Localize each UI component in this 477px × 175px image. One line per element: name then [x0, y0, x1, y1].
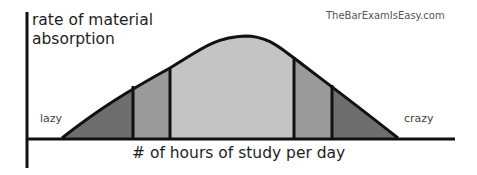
watermark: TheBarExamIsEasy.com [326, 10, 445, 21]
lazy-label: lazy [40, 112, 62, 125]
region-middle-right [294, 20, 332, 138]
x-axis-label: # of hours of study per day [132, 144, 345, 162]
y-axis-label-line2: absorption [32, 30, 153, 49]
y-axis-label-line1: rate of material [32, 11, 153, 30]
y-axis-label: rate of material absorption [32, 11, 153, 49]
region-outer-right [332, 20, 412, 138]
crazy-label: crazy [404, 112, 434, 125]
